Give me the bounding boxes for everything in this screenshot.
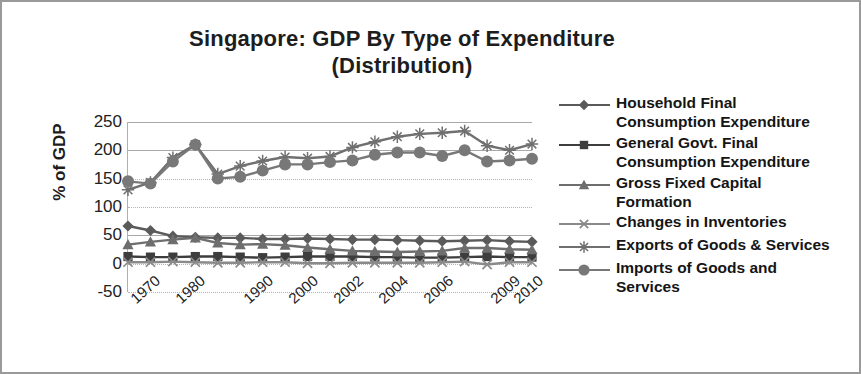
legend-label-line-2: Formation — [616, 193, 762, 212]
data-point-marker — [369, 234, 380, 245]
data-point-marker — [414, 147, 426, 159]
legend-label-line-1: General Govt. Final — [616, 134, 810, 153]
legend-label-2: Gross Fixed CapitalFormation — [612, 174, 762, 212]
data-point-marker — [189, 139, 201, 151]
data-point-marker — [436, 127, 448, 139]
legend-marker-diamond-icon — [558, 95, 612, 115]
legend-item-3[interactable]: Changes in Inventories — [558, 213, 858, 234]
data-point-marker — [347, 234, 358, 245]
y-tick--50: -50 — [56, 282, 122, 302]
legend-item-4[interactable]: Exports of Goods & Services — [558, 236, 858, 257]
data-point-marker — [144, 178, 156, 190]
data-point-marker — [346, 154, 358, 166]
data-point-marker — [369, 136, 381, 148]
data-point-marker — [279, 158, 291, 170]
y-tick-250: 250 — [56, 112, 122, 132]
data-point-marker — [324, 156, 336, 168]
data-point-marker — [392, 235, 403, 246]
series-5 — [122, 139, 538, 190]
legend-label-line-2: Consumption Expenditure — [616, 113, 810, 132]
legend-label-1: General Govt. FinalConsumption Expenditu… — [612, 134, 810, 172]
chart-title: Singapore: GDP By Type of Expenditure (D… — [112, 26, 692, 80]
legend-label-line-1: Gross Fixed Capital — [616, 174, 762, 193]
legend-marker-square-icon — [558, 135, 612, 155]
legend-item-1[interactable]: General Govt. FinalConsumption Expenditu… — [558, 134, 858, 172]
data-point-marker — [481, 156, 493, 168]
series-layer — [128, 122, 532, 292]
data-point-marker — [145, 225, 156, 236]
data-point-marker — [257, 165, 269, 177]
data-point-marker — [234, 160, 246, 172]
data-point-marker — [481, 140, 493, 152]
y-tick-100: 100 — [56, 197, 122, 217]
data-point-marker — [122, 175, 134, 187]
data-point-marker — [459, 144, 471, 156]
data-point-marker — [391, 147, 403, 159]
legend-label-line-2: Consumption Expenditure — [616, 153, 810, 172]
legend-marker-triangle-icon — [558, 175, 612, 195]
legend-marker-circle-icon — [558, 260, 612, 280]
data-point-marker — [302, 158, 314, 170]
data-point-marker — [324, 233, 335, 244]
legend-label-line-1: Exports of Goods & Services — [616, 236, 830, 255]
data-point-marker — [505, 253, 514, 262]
legend-label-line-1: Household Final — [616, 94, 810, 113]
legend-marker-x-icon — [558, 214, 612, 234]
legend-label-0: Household FinalConsumption Expenditure — [612, 94, 810, 132]
legend-item-5[interactable]: Imports of Goods andServices — [558, 259, 858, 297]
legend-label-line-1: Changes in Inventories — [616, 213, 787, 232]
data-point-marker — [167, 156, 179, 168]
data-point-marker — [281, 253, 290, 262]
data-point-marker — [526, 138, 538, 150]
plot-area — [127, 122, 532, 292]
series-0 — [122, 220, 537, 247]
data-point-marker — [391, 131, 403, 143]
chart-figure: Singapore: GDP By Type of Expenditure (D… — [0, 0, 861, 374]
chart-legend: Household FinalConsumption ExpenditureGe… — [558, 94, 858, 299]
data-point-marker — [437, 236, 448, 247]
data-point-marker — [460, 253, 469, 262]
y-tick-200: 200 — [56, 140, 122, 160]
legend-label-line-1: Imports of Goods and — [616, 259, 777, 278]
data-point-marker — [436, 150, 448, 162]
data-point-marker — [346, 141, 358, 153]
chart-title-line-2: (Distribution) — [112, 53, 692, 80]
legend-marker-star-icon — [558, 237, 612, 257]
data-point-marker — [369, 149, 381, 161]
chart-title-line-1: Singapore: GDP By Type of Expenditure — [112, 26, 692, 53]
legend-label-4: Exports of Goods & Services — [612, 236, 830, 255]
legend-label-5: Imports of Goods andServices — [612, 259, 777, 297]
data-point-marker — [414, 128, 426, 140]
data-point-marker — [526, 153, 538, 165]
legend-item-0[interactable]: Household FinalConsumption Expenditure — [558, 94, 858, 132]
y-tick-150: 150 — [56, 169, 122, 189]
x-axis-tick-labels: 197019801990200020022004200620092010 — [127, 294, 532, 364]
legend-label-line-2: Services — [616, 278, 777, 297]
data-point-marker — [483, 252, 492, 261]
data-point-marker — [168, 253, 177, 262]
data-point-marker — [258, 253, 267, 262]
legend-item-2[interactable]: Gross Fixed CapitalFormation — [558, 174, 858, 212]
legend-label-3: Changes in Inventories — [612, 213, 787, 232]
data-point-marker — [458, 125, 470, 137]
plot-canvas — [127, 122, 532, 292]
y-axis-tick-labels: 250200150100500-50 — [42, 122, 122, 292]
data-point-marker — [212, 173, 224, 185]
data-point-marker — [504, 154, 516, 166]
data-point-marker — [146, 253, 155, 262]
data-point-marker — [414, 235, 425, 246]
data-point-marker — [234, 171, 246, 183]
y-tick-0: 0 — [56, 254, 122, 274]
y-tick-50: 50 — [56, 225, 122, 245]
data-point-marker — [122, 220, 133, 231]
